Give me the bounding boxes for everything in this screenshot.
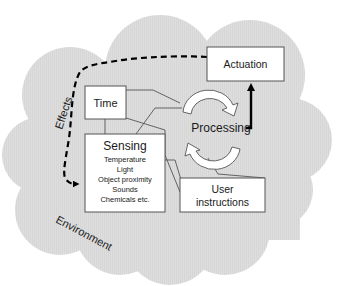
sensing-title: Sensing <box>103 139 146 153</box>
user-instructions-line1: User <box>211 183 234 195</box>
sensing-item: Temperature <box>104 155 146 164</box>
actuation-node: Actuation <box>207 47 284 81</box>
time-node: Time <box>85 86 126 119</box>
processing-label: Processing <box>191 121 250 135</box>
sensing-item: Chemicals etc. <box>100 195 149 204</box>
actuation-label: Actuation <box>224 58 268 70</box>
sensing-item: Light <box>117 165 134 174</box>
sensing-node: Sensing Temperature Light Object proximi… <box>85 134 165 212</box>
time-label: Time <box>93 97 117 109</box>
sensing-item: Sounds <box>112 185 138 194</box>
environment-diagram: Environment Effects Processing Time Sens… <box>0 0 343 286</box>
user-instructions-node: User instructions <box>180 178 265 212</box>
sensing-item: Object proximity <box>98 175 152 184</box>
user-instructions-line2: instructions <box>196 196 249 208</box>
